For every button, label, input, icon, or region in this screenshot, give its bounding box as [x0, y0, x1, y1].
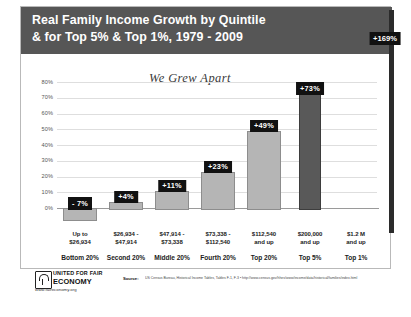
y-axis-tick-label: 0%: [21, 205, 53, 211]
bar-middle-20: [155, 191, 189, 210]
data-label-top-5: +73%: [296, 82, 324, 95]
x-axis-category-fourth-20: Fourth 20%: [193, 254, 243, 261]
income-range-line2: and up: [333, 239, 379, 247]
income-range-line2: $73,338: [149, 239, 195, 247]
y-axis-tick-label: 50%: [21, 126, 53, 132]
y-axis-tick-label: 80%: [21, 79, 53, 85]
x-axis-category-top-5: Top 5%: [285, 254, 335, 261]
data-label-fourth-20: +23%: [204, 161, 232, 174]
income-range-line2: and up: [241, 239, 287, 247]
x-axis-income-range: $1.2 Mand up: [333, 231, 379, 246]
logo-line1: UNITED FOR FAIR: [53, 270, 103, 276]
x-axis-income-range: $47,914 -$73,338: [149, 231, 195, 246]
income-range-line2: and up: [287, 239, 333, 247]
income-range-line1: $73,338 -: [195, 231, 241, 239]
income-range-line1: Up to: [57, 231, 103, 239]
income-range-line2: $47,914: [103, 239, 149, 247]
bar-bottom-20: [63, 208, 97, 221]
page-title-line1: Real Family Income Growth by Quintile: [32, 12, 266, 29]
bar-slot: [333, 54, 379, 230]
slide-canvas: Real Family Income Growth by Quintile & …: [20, 6, 391, 269]
data-label-top-20: +49%: [250, 120, 278, 133]
y-axis-tick-label: 40%: [21, 142, 53, 148]
y-axis-tick-label: 60%: [21, 110, 53, 116]
bar-fourth-20: [201, 172, 235, 210]
source-text: US Census Bureau, Historical Income Tabl…: [145, 276, 377, 281]
data-label-middle-20: +11%: [158, 180, 186, 193]
bar-slot: +4%: [103, 54, 149, 230]
bar-slot: - 7%: [57, 54, 103, 230]
income-range-line2: $112,540: [195, 239, 241, 247]
chart-plot-area: We Grew Apart 80%70%60%50%40%30%20%10%0%…: [21, 54, 392, 230]
x-axis-income-range: $26,934 -$47,914: [103, 231, 149, 246]
x-axis-income-range: Up to$26,934: [57, 231, 103, 246]
y-axis-tick-label: 20%: [21, 173, 53, 179]
income-range-line1: $1.2 M: [333, 231, 379, 239]
x-axis-category-middle-20: Middle 20%: [147, 254, 197, 261]
x-axis-income-range: $200,000and up: [287, 231, 333, 246]
y-axis-tick-label: 70%: [21, 94, 53, 100]
x-axis-category-bottom-20: Bottom 20%: [55, 254, 105, 261]
logo-url: www.faireconomy.org: [35, 287, 77, 292]
bar-series: +169% - 7%+4%+11%+23%+49%+73%: [57, 54, 379, 230]
income-range-line2: $26,934: [57, 239, 103, 247]
income-range-line1: $200,000: [287, 231, 333, 239]
bar-top-5: [299, 93, 321, 210]
y-axis-tick-label: 10%: [21, 189, 53, 195]
bar-slot: +11%: [149, 54, 195, 230]
x-axis-category-second-20: Second 20%: [101, 254, 151, 261]
income-range-line1: $47,914 -: [149, 231, 195, 239]
x-axis-quintile-labels: Bottom 20%Second 20%Middle 20%Fourth 20%…: [57, 254, 379, 266]
y-axis-tick-label: 30%: [21, 157, 53, 163]
x-axis-category-top-20: Top 20%: [239, 254, 289, 261]
income-range-line1: $26,934 -: [103, 231, 149, 239]
united-for-fair-economy-logo: UNITED FOR FAIR ECONOMY www.faireconomy.…: [35, 269, 110, 295]
bar-slot: +49%: [241, 54, 287, 230]
data-label-bottom-20: - 7%: [68, 197, 92, 210]
title-banner: Real Family Income Growth by Quintile & …: [21, 7, 392, 54]
logo-line2: ECONOMY: [53, 277, 92, 286]
page-title-line2: & for Top 5% & Top 1%, 1979 - 2009: [32, 29, 243, 46]
income-range-line1: $112,540: [241, 231, 287, 239]
data-label-top-1-percent: +169%: [370, 32, 401, 45]
bar-slot: +73%: [287, 54, 333, 230]
bar-top-20: [247, 131, 281, 210]
x-axis-income-range: $112,540and up: [241, 231, 287, 246]
data-label-second-20: +4%: [114, 191, 138, 204]
bar-slot: +23%: [195, 54, 241, 230]
x-axis-income-ranges: Up to$26,934$26,934 -$47,914$47,914 -$73…: [57, 231, 379, 253]
x-axis-category-top-1: Top 1%: [331, 254, 381, 261]
x-axis-income-range: $73,338 -$112,540: [195, 231, 241, 246]
source-label: Source:: [123, 276, 139, 281]
